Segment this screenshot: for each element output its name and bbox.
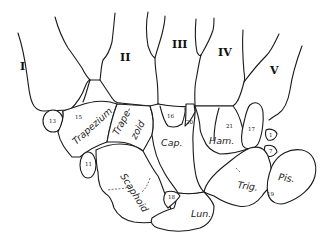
metacarpal-label-3: III: [172, 38, 187, 51]
hamate-label: Ham.: [209, 135, 234, 146]
bone-number-1: 1: [269, 132, 273, 138]
hamate-outline: [195, 106, 250, 154]
lunate-label: Lun.: [191, 208, 211, 219]
bone-number-20: 20: [186, 119, 193, 125]
pisiform-label: Pis.: [278, 171, 296, 184]
bone-number-13: 13: [49, 118, 56, 124]
metacarpal-label-1: I: [20, 60, 25, 73]
capitate-label: Cap.: [161, 137, 183, 148]
bone-number-21: 21: [226, 123, 233, 129]
metacarpal-label-4: IV: [218, 46, 232, 59]
bone-number-16: 16: [167, 113, 174, 119]
metacarpal-1: [18, 17, 90, 111]
bone-number-7: 7: [269, 148, 273, 154]
metacarpal-label-5: V: [269, 64, 279, 77]
metacarpal-3: [147, 12, 196, 108]
bone-number-18: 18: [168, 194, 175, 200]
metacarpal-4: [195, 18, 238, 106]
metacarpal-label-2: II: [120, 51, 130, 64]
bone-number-11: 11: [85, 161, 92, 167]
bone-number-15: 15: [75, 114, 82, 120]
triquetrum-outline: [204, 147, 271, 206]
wrist-bone-diagram: I II III IV V Trapezium Trape- zoid Cap.…: [0, 0, 326, 247]
bone-number-17: 17: [248, 126, 255, 132]
bone-number-19: 19: [267, 191, 274, 197]
